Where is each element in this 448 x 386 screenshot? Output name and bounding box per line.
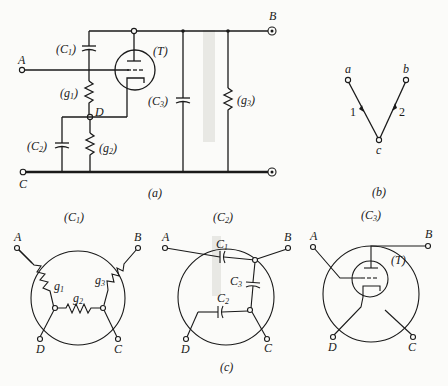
terminal-b[interactable] bbox=[426, 244, 431, 249]
panel-b-graph: a b c 1 2 (b) bbox=[345, 62, 409, 199]
label-c1: (C1) bbox=[56, 42, 76, 57]
caption-a: (a) bbox=[148, 186, 162, 200]
label-c: C bbox=[114, 342, 123, 356]
terminal-a[interactable] bbox=[163, 246, 168, 251]
label-g3: (g3) bbox=[237, 93, 255, 108]
node-b bbox=[253, 258, 258, 263]
terminal-a[interactable] bbox=[311, 245, 316, 250]
label-a: A bbox=[161, 230, 170, 244]
label-b: B bbox=[425, 227, 433, 241]
subgraph-c1: (C1) A B D C g1 g2 g3 bbox=[13, 210, 142, 356]
resistor-g1 bbox=[18, 249, 54, 308]
node-b bbox=[403, 77, 408, 82]
terminal-d[interactable] bbox=[331, 335, 336, 340]
label-b: B bbox=[134, 230, 142, 244]
resistor-g3 bbox=[224, 88, 232, 172]
label-node-a: a bbox=[345, 62, 351, 76]
caption-b: (b) bbox=[372, 185, 386, 199]
terminal-d[interactable] bbox=[38, 337, 43, 342]
scan-smudge bbox=[203, 30, 215, 142]
terminal-b[interactable] bbox=[136, 246, 141, 251]
label-b: B bbox=[269, 9, 277, 23]
label-c: C bbox=[408, 340, 417, 354]
resistor-g1 bbox=[85, 81, 93, 116]
label-c2: C2 bbox=[217, 291, 229, 306]
label-t: (T) bbox=[391, 253, 406, 267]
resistor-g2 bbox=[86, 133, 94, 172]
node-c bbox=[248, 308, 253, 313]
node-d bbox=[53, 306, 58, 311]
label-d: D bbox=[327, 340, 337, 354]
subgraph-c3-title: (C3) bbox=[361, 208, 381, 223]
vacuum-tube-t bbox=[352, 246, 426, 297]
terminal-b[interactable] bbox=[268, 27, 276, 35]
label-a: A bbox=[13, 230, 22, 244]
terminal-c[interactable] bbox=[411, 335, 416, 340]
label-a: A bbox=[309, 229, 318, 243]
node-c bbox=[101, 306, 106, 311]
label-g1: g1 bbox=[54, 279, 64, 294]
label-t: (T) bbox=[153, 44, 168, 58]
terminal-c[interactable] bbox=[116, 337, 121, 342]
label-a: A bbox=[17, 53, 26, 67]
label-branch-1: 1 bbox=[350, 105, 356, 119]
terminal-ground-right[interactable] bbox=[268, 168, 276, 176]
label-g2: g2 bbox=[73, 291, 83, 306]
label-b: B bbox=[284, 230, 292, 244]
node-a bbox=[345, 77, 350, 82]
subgraph-c1-title: (C1) bbox=[64, 210, 84, 225]
label-c2: (C2) bbox=[27, 139, 47, 154]
label-branch-2: 2 bbox=[399, 105, 405, 119]
label-node-b: b bbox=[403, 62, 409, 76]
label-g2: (g2) bbox=[99, 141, 117, 156]
terminal-a[interactable] bbox=[19, 67, 24, 72]
label-d: D bbox=[180, 342, 190, 356]
arrow-branch-1-icon bbox=[359, 105, 364, 112]
label-g3: g3 bbox=[95, 273, 105, 288]
subgraph-c2: (C2) A B D C bbox=[161, 210, 292, 374]
plate-node bbox=[131, 28, 136, 33]
network-figure: A B C D (T) (C1) (g1) (C2) (g2) (C3) (g3… bbox=[0, 0, 448, 386]
subgraph-c3: (C3) A B D C (T) bbox=[309, 208, 433, 354]
label-d: D bbox=[35, 342, 45, 356]
label-c: C bbox=[19, 177, 28, 191]
label-node-c: c bbox=[376, 143, 382, 157]
terminal-b[interactable] bbox=[286, 246, 291, 251]
arrow-branch-2-icon bbox=[392, 103, 397, 111]
label-d: D bbox=[94, 105, 104, 119]
label-c3: C3 bbox=[230, 274, 242, 289]
terminal-d[interactable] bbox=[184, 337, 189, 342]
label-c1: C1 bbox=[216, 237, 228, 252]
caption-c: (c) bbox=[220, 360, 233, 374]
label-c3: (C3) bbox=[148, 94, 168, 109]
terminal-c[interactable] bbox=[20, 169, 26, 175]
terminal-a[interactable] bbox=[15, 246, 20, 251]
node-c bbox=[376, 137, 381, 142]
label-c: C bbox=[264, 341, 273, 355]
vacuum-tube-t bbox=[115, 31, 155, 90]
label-g1: (g1) bbox=[60, 86, 78, 101]
subgraph-c2-title: (C2) bbox=[213, 210, 233, 225]
panel-a-circuit: A B C D (T) (C1) (g1) (C2) (g2) (C3) (g3… bbox=[17, 9, 277, 200]
